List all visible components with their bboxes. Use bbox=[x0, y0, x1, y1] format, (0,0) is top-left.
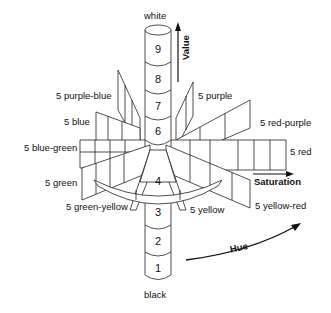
hue-label-red: 5 red bbox=[290, 147, 312, 157]
hue-label-purple: 5 purple bbox=[198, 91, 232, 101]
value-level-2: 2 bbox=[145, 236, 171, 247]
hue-label-red-purple: 5 red-purple bbox=[260, 118, 311, 128]
value-level-9: 9 bbox=[145, 44, 171, 55]
value-level-8: 8 bbox=[145, 74, 171, 85]
hue-label-yellow: 5 yellow bbox=[190, 205, 224, 215]
saturation-axis-label: Saturation bbox=[254, 177, 301, 187]
black-label: black bbox=[144, 290, 166, 300]
value-level-4: 4 bbox=[145, 176, 171, 187]
hue-label-green: 5 green bbox=[45, 178, 77, 188]
hue-label-blue: 5 blue bbox=[64, 117, 90, 127]
hue-label-yellow-red: 5 yellow-red bbox=[255, 201, 306, 211]
value-level-3: 3 bbox=[145, 207, 171, 218]
white-label: white bbox=[144, 11, 166, 21]
value-axis-label: Value bbox=[181, 35, 191, 60]
hue-label-blue-green: 5 blue-green bbox=[24, 143, 77, 153]
hue-label-green-yellow: 5 green-yellow bbox=[66, 202, 128, 212]
hue-label-purple-blue: 5 purple-blue bbox=[56, 91, 111, 101]
value-level-7: 7 bbox=[145, 101, 171, 112]
value-level-6: 6 bbox=[145, 126, 171, 137]
value-level-1: 1 bbox=[145, 263, 171, 274]
